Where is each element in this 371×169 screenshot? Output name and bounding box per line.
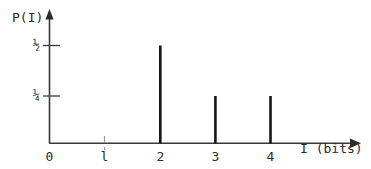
y-tick-label-half: ½ [14,39,40,51]
x-tick-label-4: 4 [261,150,281,163]
x-tick-label-1: l [95,150,115,163]
x-axis-label: I (bits) [300,142,363,155]
x-tick-label-0: 0 [40,150,60,163]
y-tick-label-quarter: ¼ [14,89,40,101]
y-axis-label: P(I) [12,11,43,24]
x-tick-label-2: 2 [151,150,171,163]
x-tick-label-3: 3 [206,150,226,163]
